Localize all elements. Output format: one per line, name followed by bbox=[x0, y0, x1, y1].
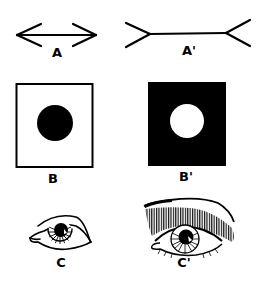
label-c: C bbox=[56, 256, 66, 269]
figure-canvas bbox=[0, 0, 266, 284]
panel-c-plain-eye bbox=[30, 216, 91, 250]
label-a-prime: A' bbox=[182, 44, 196, 57]
panel-a-arrow-line bbox=[17, 24, 96, 46]
label-b-prime: B' bbox=[179, 170, 193, 183]
panel-b-prime-white-dot-square bbox=[148, 82, 226, 166]
label-b: B bbox=[48, 172, 58, 185]
panel-b-black-dot-square bbox=[17, 84, 93, 167]
panel-c-prime-shaded-eye bbox=[144, 199, 234, 258]
label-c-prime: C' bbox=[177, 256, 191, 269]
label-a: A bbox=[52, 46, 62, 59]
illusion-figure: A A' B B' C C' bbox=[0, 0, 266, 284]
